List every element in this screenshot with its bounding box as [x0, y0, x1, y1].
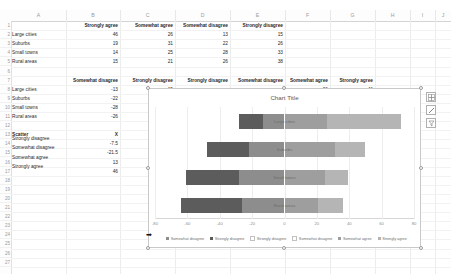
resize-handle-ne[interactable]: [419, 86, 423, 90]
chart-bar-group[interactable]: Large cities: [155, 114, 414, 129]
data-cell[interactable]: 38: [231, 57, 283, 66]
data-cell[interactable]: 26: [121, 30, 173, 39]
chart-bar-group[interactable]: Rural areas: [155, 198, 414, 213]
legend-item[interactable]: Strongly disagree: [210, 237, 244, 241]
data-cell[interactable]: -22: [67, 94, 118, 103]
row-label-cell[interactable]: Suburbs: [12, 94, 64, 103]
data-cell[interactable]: 13: [67, 158, 118, 167]
row-header-18[interactable]: 18: [0, 176, 11, 185]
row-header-15[interactable]: 15: [0, 148, 11, 157]
resize-handle-sw[interactable]: [146, 246, 150, 250]
row-label-cell[interactable]: Small towns: [12, 48, 64, 57]
row-header-12[interactable]: 12: [0, 121, 11, 130]
bar-segment[interactable]: [186, 170, 239, 185]
header-cell[interactable]: Somewhat agree: [121, 21, 173, 30]
data-cell[interactable]: -21.5: [67, 148, 118, 157]
row-header-2[interactable]: 2: [0, 30, 11, 39]
resize-handle-w[interactable]: [146, 166, 150, 170]
row-header-17[interactable]: 17: [0, 167, 11, 176]
resize-handle-nw[interactable]: [146, 86, 150, 90]
chart-bar-group[interactable]: Small towns: [155, 170, 414, 185]
chart-title[interactable]: Chart Title: [149, 94, 420, 101]
row-header-8[interactable]: 8: [0, 85, 11, 94]
row-header-13[interactable]: 13: [0, 130, 11, 139]
row-header-24[interactable]: 24: [0, 230, 11, 239]
bar-segment[interactable]: [181, 198, 243, 213]
row-header-5[interactable]: 5: [0, 57, 11, 66]
data-cell[interactable]: 26: [231, 39, 283, 48]
row-header-9[interactable]: 9: [0, 94, 11, 103]
column-header-C[interactable]: C: [120, 10, 176, 21]
legend-item[interactable]: Strongly agree: [378, 237, 407, 241]
chart-styles-button[interactable]: [426, 105, 436, 115]
legend-item[interactable]: Somewhat disagree: [292, 236, 332, 241]
chart-filters-button[interactable]: [426, 118, 436, 128]
chart-side-buttons[interactable]: [426, 92, 436, 131]
bar-segment[interactable]: [327, 114, 401, 129]
data-cell[interactable]: -26: [67, 112, 118, 121]
row-label-cell[interactable]: Strongly agree: [12, 165, 64, 183]
row-label-cell[interactable]: Rural areas: [12, 57, 64, 66]
header-cell[interactable]: Strongly agree: [67, 21, 118, 30]
data-cell[interactable]: 46: [67, 167, 118, 176]
data-cell[interactable]: 33: [231, 48, 283, 57]
resize-handle-s[interactable]: [282, 246, 286, 250]
column-header-B[interactable]: B: [66, 10, 121, 21]
chart-elements-button[interactable]: [426, 92, 436, 102]
column-header-J[interactable]: J: [435, 10, 451, 21]
data-cell[interactable]: 13: [176, 30, 228, 39]
header-cell[interactable]: Strongly disagree: [121, 76, 173, 85]
data-cell[interactable]: 22: [176, 39, 228, 48]
column-header-A[interactable]: A: [11, 10, 67, 21]
header-cell[interactable]: Somewhat agree: [286, 76, 328, 85]
data-cell[interactable]: 14: [67, 48, 118, 57]
resize-handle-se[interactable]: [419, 246, 423, 250]
row-header-14[interactable]: 14: [0, 139, 11, 148]
data-cell[interactable]: 19: [67, 39, 118, 48]
data-cell[interactable]: 21: [121, 57, 173, 66]
column-header-D[interactable]: D: [175, 10, 231, 21]
row-header-16[interactable]: 16: [0, 158, 11, 167]
header-cell[interactable]: Strongly agree: [331, 76, 373, 85]
column-header-G[interactable]: G: [330, 10, 376, 21]
chart-object[interactable]: Chart Title Large citiesSuburbsSmall tow…: [148, 88, 421, 248]
data-cell[interactable]: -13: [67, 85, 118, 94]
header-cell[interactable]: Strongly disagree: [176, 76, 228, 85]
row-header-21[interactable]: 21: [0, 203, 11, 212]
row-header-7[interactable]: 7: [0, 76, 11, 85]
data-cell[interactable]: 26: [176, 57, 228, 66]
row-header-3[interactable]: 3: [0, 39, 11, 48]
data-cell[interactable]: -28: [67, 103, 118, 112]
row-label-cell[interactable]: Rural areas: [12, 112, 64, 121]
row-header-22[interactable]: 22: [0, 212, 11, 221]
data-cell[interactable]: 25: [121, 48, 173, 57]
row-header-10[interactable]: 10: [0, 103, 11, 112]
header-cell[interactable]: Somewhat disagree: [231, 76, 283, 85]
resize-handle-n[interactable]: [282, 86, 286, 90]
legend-item[interactable]: Somewhat agree: [338, 237, 371, 241]
data-cell[interactable]: -7.5: [67, 139, 118, 148]
bar-segment[interactable]: [207, 142, 249, 157]
header-cell[interactable]: Somewhat disagree: [67, 76, 118, 85]
legend-item[interactable]: Somewhat disagree: [166, 237, 204, 241]
header-cell[interactable]: Strongly disagree: [231, 21, 283, 30]
row-header-23[interactable]: 23: [0, 221, 11, 230]
column-header-I[interactable]: I: [410, 10, 436, 21]
row-header-27[interactable]: 27: [0, 258, 11, 267]
column-header-H[interactable]: H: [375, 10, 411, 21]
data-cell[interactable]: 15: [231, 30, 283, 39]
row-label-cell[interactable]: Large cities: [12, 30, 64, 39]
data-cell[interactable]: 31: [121, 39, 173, 48]
chart-bar-group[interactable]: Suburbs: [155, 142, 414, 157]
data-cell[interactable]: 28: [176, 48, 228, 57]
data-cell[interactable]: 15: [67, 57, 118, 66]
row-header-25[interactable]: 25: [0, 239, 11, 248]
row-label-cell[interactable]: Large cities: [12, 85, 64, 94]
row-header-26[interactable]: 26: [0, 249, 11, 258]
bar-segment[interactable]: [335, 142, 366, 157]
row-header-19[interactable]: 19: [0, 185, 11, 194]
bar-segment[interactable]: [318, 198, 342, 213]
row-header-4[interactable]: 4: [0, 48, 11, 57]
chart-legend[interactable]: ➡ Somewhat disagreeStrongly disagreeStro…: [157, 234, 416, 243]
row-header-20[interactable]: 20: [0, 194, 11, 203]
